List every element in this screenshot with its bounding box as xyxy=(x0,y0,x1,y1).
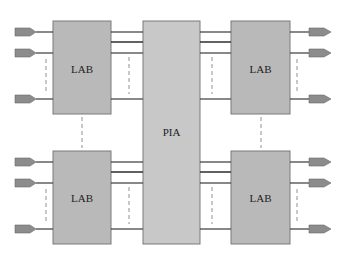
io-pin-icon xyxy=(15,225,36,233)
io-pin-icon xyxy=(15,179,36,187)
pia-block: PIA xyxy=(143,21,200,244)
lab-bottom-left: LAB xyxy=(53,151,111,244)
pia-label: PIA xyxy=(163,126,181,138)
lab-pia-diagram: PIA LAB LAB xyxy=(0,0,348,257)
lab-bottom-right-label: LAB xyxy=(250,192,272,204)
io-pins-top-right xyxy=(309,28,331,103)
lab-bottom-right: LAB xyxy=(231,151,290,244)
pin-wires-bottom-left xyxy=(36,162,53,229)
bus-top-left xyxy=(111,32,143,99)
lab-top-left: LAB xyxy=(53,21,111,114)
io-pins-bottom-right xyxy=(309,158,331,233)
lab-bottom-left-label: LAB xyxy=(71,192,93,204)
io-pins-top-left xyxy=(15,28,36,103)
io-pin-icon xyxy=(15,158,36,166)
lab-top-left-label: LAB xyxy=(71,63,93,75)
io-pin-icon xyxy=(15,28,36,36)
io-pin-icon xyxy=(309,95,331,103)
io-pin-icon xyxy=(309,28,331,36)
pin-wires-bottom-right xyxy=(290,162,309,229)
bus-top-right xyxy=(200,32,231,99)
io-pin-icon xyxy=(309,179,331,187)
lab-top-right: LAB xyxy=(231,21,290,114)
lab-top-right-label: LAB xyxy=(250,63,272,75)
io-pin-icon xyxy=(15,95,36,103)
bus-bottom-left xyxy=(111,162,143,229)
io-pins-bottom-left xyxy=(15,158,36,233)
io-pin-icon xyxy=(309,49,331,57)
io-pin-icon xyxy=(309,158,331,166)
pin-wires-top-right xyxy=(290,32,309,99)
io-pin-icon xyxy=(309,225,331,233)
pin-wires-top-left xyxy=(36,32,53,99)
bus-bottom-right xyxy=(200,162,231,229)
io-pin-icon xyxy=(15,49,36,57)
